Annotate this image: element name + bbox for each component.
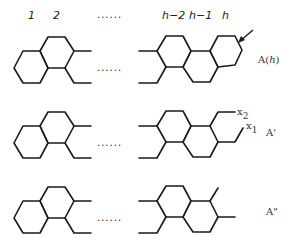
right-fragment [139, 111, 243, 158]
structure-label-A-h: A(h) [257, 54, 280, 65]
structure-A-double-prime: ...... [14, 186, 235, 233]
ring-label-2: 2 [53, 9, 60, 22]
left-fragment [14, 112, 91, 158]
structure-label-A-prime: A' [265, 127, 276, 138]
chain-ellipsis: ...... [97, 62, 122, 73]
left-fragment [14, 187, 91, 233]
ring-label-h-1: h−1 [189, 9, 212, 22]
arrow-icon [238, 30, 253, 43]
structure-label-A-double-prime: A" [265, 206, 278, 217]
ring-label-h-2: h−2 [162, 9, 185, 22]
chain-ellipsis: ...... [97, 137, 122, 148]
header-ellipsis: ...... [97, 9, 122, 20]
structure-A-h: ...... A(h) [14, 30, 280, 83]
ring-label-h: h [222, 9, 229, 22]
substituent-x1: x1 [246, 120, 257, 135]
ring-label-1: 1 [28, 9, 35, 22]
substituent-x2: x2 [237, 106, 248, 121]
right-fragment [139, 186, 235, 233]
left-fragment [14, 37, 91, 83]
chain-ellipsis: ...... [97, 212, 122, 223]
polyacene-diagram: 1 2 ...... h−2 h−1 h ...... A(h) [0, 0, 299, 245]
right-fragment [139, 36, 242, 83]
structure-A-prime: ...... [14, 111, 243, 158]
